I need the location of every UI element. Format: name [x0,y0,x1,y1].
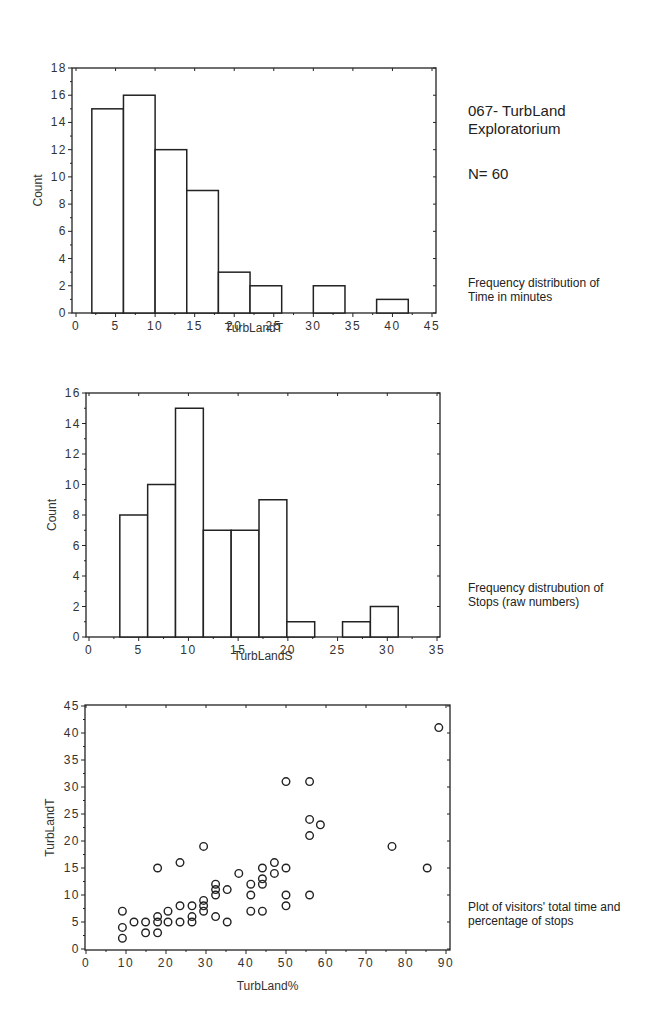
scatter-point [154,918,162,926]
x-tick-label: 45 [424,319,440,333]
y-tick-label: 10 [51,170,67,184]
scatter-point [176,902,184,910]
y-tick-label: 2 [73,600,81,614]
x-tick-label: 70 [358,956,374,970]
scatter-point [176,859,184,867]
scatter-point [247,891,255,899]
y-axis-title: Count [45,498,59,531]
scatter-point [188,918,196,926]
scatter-point [306,891,314,899]
y-axis-title: TurbLandT [43,798,57,857]
x-tick-label: 35 [429,643,445,657]
y-tick-label: 6 [59,224,67,238]
scatter-point [271,870,279,878]
histogram-bar [176,408,204,637]
histogram-bar [187,191,219,314]
scatter-point [306,778,314,786]
y-tick-label: 16 [65,386,81,400]
scatter-point [235,870,243,878]
y-tick-label: 10 [65,478,81,492]
scatter-point [188,902,196,910]
chart1-caption: Frequency distribution of Time in minute… [468,276,599,304]
y-tick-label: 4 [59,252,67,266]
x-tick-label: 5 [111,319,119,333]
chart-3: 0102030405060708090051015202530354045Tur… [43,699,454,993]
x-tick-label: 30 [379,643,395,657]
y-tick-label: 18 [51,61,67,75]
scatter-point [212,913,220,921]
scatter-point [119,934,127,942]
y-tick-label: 0 [59,306,67,320]
study-title: 067- TurbLand Exploratorium [468,102,566,138]
chart2-caption: Frequency distrubution of Stops (raw num… [468,581,603,609]
scatter-point [154,929,162,937]
scatter-point [142,929,150,937]
scatter-point [282,891,290,899]
histogram-bar [203,530,231,637]
scatter-point [306,832,314,840]
x-tick-label: 30 [198,956,214,970]
scatter-point [142,918,150,926]
y-tick-label: 10 [64,888,80,902]
chart-2: 051015202530350246810121416TurbLandSCoun… [45,386,445,663]
y-tick-label: 0 [73,630,81,644]
scatter-point [388,843,396,851]
scatter-point [306,816,314,824]
scatter-point [200,907,208,915]
x-tick-label: 35 [345,319,361,333]
x-tick-label: 5 [135,643,143,657]
x-axis-title: TurbLandS [234,649,293,663]
x-tick-label: 30 [305,319,321,333]
histogram-bar [120,515,148,637]
histogram-bar [123,95,155,313]
scatter-point [176,918,184,926]
x-tick-label: 15 [186,319,202,333]
scatter-point [154,864,162,872]
scatter-point [247,907,255,915]
chart3-caption-line2: percentage of stops [468,914,620,928]
scatter-point [130,918,138,926]
histogram-bar [92,109,124,313]
x-tick-label: 0 [85,643,93,657]
y-tick-label: 12 [65,447,81,461]
scatter-point [223,918,231,926]
y-tick-label: 2 [59,279,67,293]
scatter-point [212,891,220,899]
x-tick-label: 10 [118,956,134,970]
scatter-point [282,902,290,910]
y-tick-label: 4 [73,569,81,583]
sample-size-label: N= 60 [468,165,508,182]
scatter-point [223,886,231,894]
scatter-point [435,724,443,732]
chart-1: 051015202530354045024681012141618TurbLan… [31,61,440,335]
histogram-bar [313,286,345,313]
y-tick-label: 30 [64,780,80,794]
x-tick-label: 50 [278,956,294,970]
scatter-point [119,907,127,915]
scatter-point [247,880,255,888]
y-tick-label: 12 [51,143,67,157]
x-axis-title: TurbLand% [237,979,299,993]
histogram-bar [343,622,371,637]
scatter-point [164,907,172,915]
y-tick-label: 25 [64,807,80,821]
y-tick-label: 14 [51,115,67,129]
y-tick-label: 8 [73,508,81,522]
histogram-bar [231,530,259,637]
y-tick-label: 0 [72,942,80,956]
histogram-bar [259,500,287,637]
scatter-point [259,864,267,872]
y-tick-label: 40 [64,726,80,740]
y-tick-label: 14 [65,417,81,431]
scatter-point [259,880,267,888]
x-tick-label: 60 [318,956,334,970]
x-tick-label: 20 [158,956,174,970]
x-tick-label: 25 [329,643,345,657]
study-title-line2: Exploratorium [468,120,566,138]
scatter-point [164,918,172,926]
scatter-point [200,843,208,851]
chart2-caption-line1: Frequency distrubution of [468,581,603,595]
scatter-point [271,859,279,867]
y-tick-label: 20 [64,834,80,848]
scatter-point [282,778,290,786]
